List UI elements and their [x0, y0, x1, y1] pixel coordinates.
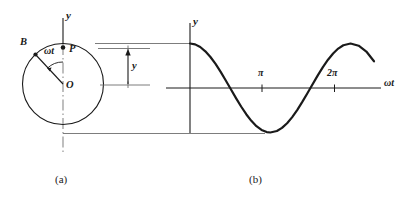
graph-y-axis-label: y: [193, 16, 198, 27]
figure-container: y B P O ωt y y ωt π 2π (a) (b): [0, 0, 407, 198]
displacement-y-label: y: [132, 61, 137, 72]
circle-y-axis-label: y: [66, 10, 71, 21]
point-B-marker: [33, 52, 37, 56]
point-P-label: P: [69, 44, 75, 55]
point-B-label: B: [20, 37, 27, 48]
tick-label-pi: π: [258, 68, 263, 78]
graph-x-axis-label: ωt: [384, 78, 394, 88]
point-P-marker: [61, 45, 66, 50]
tick-label-two-pi: 2π: [327, 68, 337, 78]
point-O-label: O: [66, 80, 74, 91]
angle-arc-omega-t: [47, 62, 63, 68]
displacement-arrowhead-up: [125, 49, 130, 56]
caption-panel-a: (a): [55, 174, 67, 185]
angle-omega-t-label: ωt: [44, 46, 54, 56]
caption-panel-b: (b): [249, 174, 262, 185]
figure-graphics: [0, 0, 407, 198]
